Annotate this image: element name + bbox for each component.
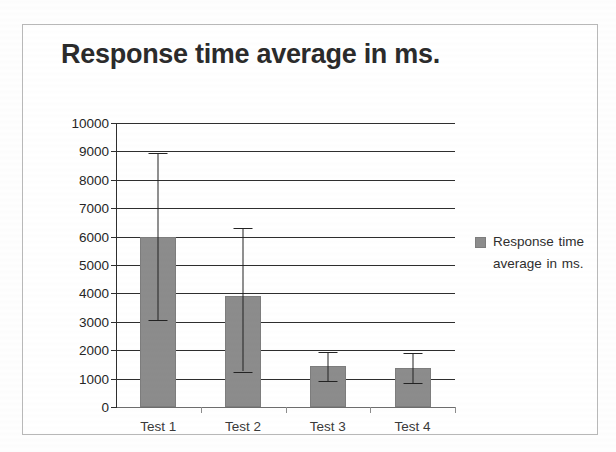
- legend-color-swatch: [475, 237, 486, 248]
- x-axis-tick-label: Test 3: [310, 419, 346, 434]
- y-axis-tick-labels: 0100020003000400050006000700080009000100…: [51, 123, 109, 407]
- y-axis-tick: [111, 379, 117, 380]
- chart-page: Response time average in ms. 01000200030…: [0, 0, 616, 452]
- error-bar-cap-upper: [234, 228, 253, 229]
- error-bar-stem: [327, 352, 328, 381]
- y-axis-tick: [111, 293, 117, 294]
- y-axis-tick-label: 2000: [79, 343, 109, 358]
- y-axis-tick-label: 7000: [79, 201, 109, 216]
- y-axis-tick: [111, 322, 117, 323]
- error-bar-stem: [243, 228, 244, 371]
- error-bar-test-1: [140, 123, 176, 407]
- y-axis-tick-label: 5000: [79, 258, 109, 273]
- error-bar-stem: [412, 353, 413, 383]
- y-axis-tick-label: 3000: [79, 314, 109, 329]
- legend-entry-label: Response time average in ms.: [493, 231, 593, 275]
- y-axis-tick-label: 1000: [79, 371, 109, 386]
- chart-legend: Response time average in ms.: [475, 231, 593, 275]
- y-axis-tick-label: 8000: [79, 172, 109, 187]
- y-axis-tick-label: 6000: [79, 229, 109, 244]
- y-axis-tick-label: 0: [101, 400, 109, 415]
- y-axis-tick: [111, 180, 117, 181]
- x-axis-tick-labels: Test 1Test 2Test 3Test 4: [116, 419, 455, 441]
- error-bar-cap-lower: [318, 381, 337, 382]
- error-bar-cap-lower: [403, 383, 422, 384]
- y-axis-tick-label: 10000: [71, 116, 109, 131]
- error-bar-cap-upper: [403, 353, 422, 354]
- error-bar-cap-lower: [234, 372, 253, 373]
- x-axis-tick: [455, 407, 456, 413]
- x-axis-tick-label: Test 2: [225, 419, 261, 434]
- x-axis-tick: [201, 407, 202, 413]
- y-axis-tick: [111, 265, 117, 266]
- y-axis-tick-label: 4000: [79, 286, 109, 301]
- y-axis-tick: [111, 208, 117, 209]
- error-bar-test-3: [310, 123, 346, 407]
- y-axis-tick: [111, 123, 117, 124]
- error-bar-cap-upper: [318, 352, 337, 353]
- error-bar-cap-lower: [149, 320, 168, 321]
- x-axis-tick-label: Test 4: [395, 419, 431, 434]
- x-axis-tick-label: Test 1: [140, 419, 176, 434]
- y-axis-tick: [111, 237, 117, 238]
- y-axis-tick: [111, 350, 117, 351]
- x-axis-tick: [286, 407, 287, 413]
- y-axis-tick: [111, 407, 117, 408]
- error-bar-cap-upper: [149, 153, 168, 154]
- x-axis-tick: [370, 407, 371, 413]
- y-axis-tick: [111, 151, 117, 152]
- error-bar-test-2: [225, 123, 261, 407]
- chart-title: Response time average in ms.: [23, 39, 478, 70]
- y-axis-tick-label: 9000: [79, 144, 109, 159]
- chart-frame: Response time average in ms. 01000200030…: [22, 24, 598, 435]
- error-bar-test-4: [395, 123, 431, 407]
- error-bar-stem: [158, 153, 159, 320]
- plot-area: [116, 123, 455, 407]
